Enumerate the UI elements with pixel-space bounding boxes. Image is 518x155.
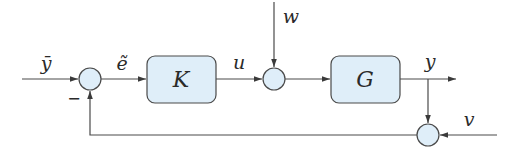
- summing-junction-2: [263, 68, 285, 90]
- controller-label: K: [172, 67, 191, 92]
- summing-junction-1: [79, 68, 101, 90]
- noise-label: v: [464, 108, 475, 130]
- summing-junction-3: [417, 124, 439, 146]
- disturbance-label: w: [283, 5, 299, 27]
- control-label: u: [233, 51, 245, 73]
- output-label: y: [424, 50, 436, 72]
- minus-sign: −: [67, 89, 80, 108]
- plant-label: G: [356, 67, 374, 92]
- error-label: ẽ: [116, 52, 127, 74]
- reference-label: ȳ: [40, 52, 52, 74]
- block-diagram: K G ȳ ẽ u w y v −: [0, 0, 518, 155]
